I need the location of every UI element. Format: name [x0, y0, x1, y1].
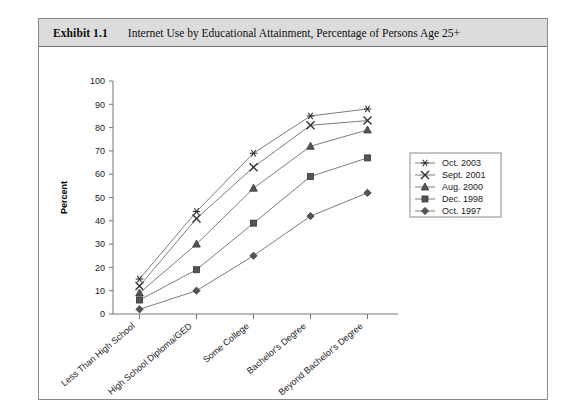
legend-item-label[interactable]: Aug. 2000 — [442, 182, 483, 192]
series-line-dec-1998 — [140, 158, 368, 300]
exhibit-header: Exhibit 1.1 Internet Use by Educational … — [39, 19, 547, 47]
x-axis-tick-label: Bachelor's Degree — [245, 321, 308, 376]
data-point-square — [308, 174, 314, 180]
y-axis-tick-label: 80 — [95, 123, 105, 133]
series-layer — [136, 106, 372, 313]
data-point-square — [251, 220, 257, 226]
y-axis-tick-label: 60 — [95, 169, 105, 179]
legend-marker-square — [422, 196, 428, 202]
data-point-triangle — [136, 289, 144, 296]
exhibit-frame: Exhibit 1.1 Internet Use by Educational … — [38, 18, 548, 400]
data-point-triangle — [250, 184, 258, 191]
chart-legend[interactable]: Oct. 2003Sept. 2001Aug. 2000Dec. 1998Oct… — [410, 153, 501, 217]
data-point-diamond — [307, 213, 314, 220]
exhibit-number: Exhibit 1.1 — [53, 27, 108, 39]
y-axis-tick-label: 70 — [95, 146, 105, 156]
data-point-triangle — [364, 126, 372, 133]
series-line-sept-2001 — [140, 121, 368, 286]
legend-item-label[interactable]: Oct. 2003 — [442, 158, 481, 168]
x-axis-tick-label: Some College — [201, 321, 251, 365]
line-chart: 0102030405060708090100Percent Less Than … — [39, 47, 549, 400]
legend-item-label[interactable]: Oct. 1997 — [442, 206, 481, 216]
y-axis-tick-label: 90 — [95, 100, 105, 110]
y-axis-tick-label: 0 — [100, 309, 105, 319]
data-point-square — [137, 297, 143, 303]
y-axis-tick-label: 10 — [95, 286, 105, 296]
data-point-square — [365, 155, 371, 161]
data-point-diamond — [250, 252, 257, 259]
y-axis-title: Percent — [59, 181, 69, 214]
data-point-square — [194, 267, 200, 273]
data-point-diamond — [136, 306, 143, 313]
data-point-diamond — [364, 189, 371, 196]
legend-item-label[interactable]: Dec. 1998 — [442, 194, 483, 204]
y-axis-tick-label: 30 — [95, 239, 105, 249]
y-axis-tick-label: 50 — [95, 193, 105, 203]
x-axis: Less Than High SchoolHigh School Diploma… — [59, 314, 398, 397]
y-axis-tick-label: 40 — [95, 216, 105, 226]
chart-plot-area: 0102030405060708090100Percent Less Than … — [39, 47, 547, 400]
exhibit-title: Internet Use by Educational Attainment, … — [128, 27, 460, 39]
data-point-diamond — [193, 287, 200, 294]
legend-item-label[interactable]: Sept. 2001 — [442, 170, 486, 180]
series-line-aug-2000 — [140, 130, 368, 293]
series-line-oct-1997 — [140, 193, 368, 310]
y-axis-tick-label: 100 — [90, 76, 105, 86]
y-axis-tick-label: 20 — [95, 263, 105, 273]
y-axis: 0102030405060708090100Percent — [59, 76, 113, 319]
